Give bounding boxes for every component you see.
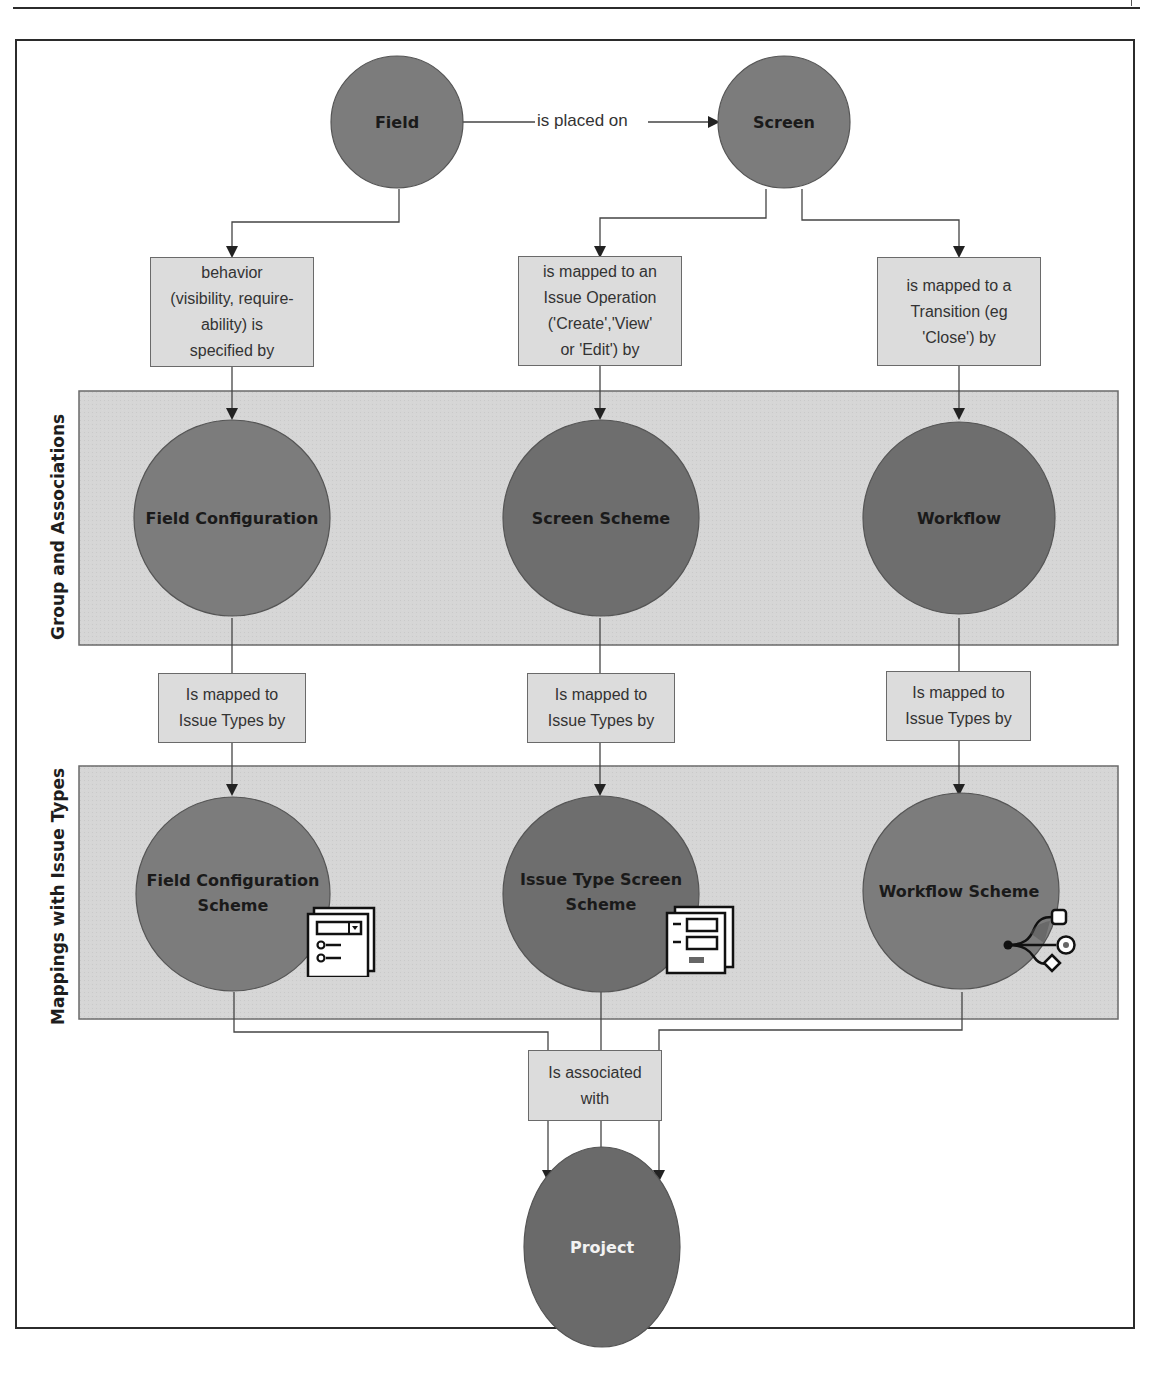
screen-form-icon <box>665 905 735 975</box>
relation-text: Is mapped to Issue Types by <box>905 680 1011 732</box>
relation-text: is mapped to a Transition (eg 'Close') b… <box>907 273 1012 351</box>
relation-text: behavior (visibility, require- ability) … <box>170 260 293 364</box>
node-label-issue-type-screen-scheme: Issue Type Screen Scheme <box>520 867 682 917</box>
edge-label-is-placed-on: is placed on <box>535 111 630 131</box>
relation-box-fc-issue-types: Is mapped to Issue Types by <box>158 673 306 743</box>
node-label-field-configuration-scheme: Field Configuration Scheme <box>147 868 320 918</box>
relation-text: Is mapped to Issue Types by <box>179 682 285 734</box>
node-label-field: Field <box>375 110 419 135</box>
node-label-screen: Screen <box>753 110 815 135</box>
band-label-mappings: Mappings with Issue Types <box>48 768 68 1025</box>
relation-text: is mapped to an Issue Operation ('Create… <box>543 259 657 363</box>
relation-box-behavior: behavior (visibility, require- ability) … <box>150 257 314 367</box>
node-label-workflow: Workflow <box>917 506 1001 531</box>
relation-text: Is mapped to Issue Types by <box>548 682 654 734</box>
node-label-field-configuration: Field Configuration <box>146 506 319 531</box>
relation-box-associated-with: Is associated with <box>528 1050 662 1121</box>
relation-box-wf-issue-types: Is mapped to Issue Types by <box>886 671 1031 741</box>
relation-box-ss-issue-types: Is mapped to Issue Types by <box>527 673 675 743</box>
band-label-group: Group and Associations <box>48 414 68 640</box>
relation-text: Is associated with <box>548 1060 641 1112</box>
node-label-screen-scheme: Screen Scheme <box>532 506 670 531</box>
workflow-branch-icon <box>1000 905 1080 975</box>
form-dropdown-icon <box>305 905 377 977</box>
relation-box-transition: is mapped to a Transition (eg 'Close') b… <box>877 257 1041 366</box>
relation-box-issue-operation: is mapped to an Issue Operation ('Create… <box>518 256 682 366</box>
node-label-workflow-scheme: Workflow Scheme <box>879 879 1040 904</box>
node-label-project: Project <box>570 1235 634 1260</box>
